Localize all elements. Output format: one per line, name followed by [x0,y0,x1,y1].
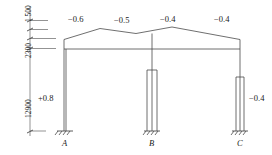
column-b [147,34,157,132]
support-a-symbol [55,131,73,135]
support-b-symbol [143,131,160,135]
coefficient-right-leeward: −0.4 [214,15,229,24]
support-label-a: A [62,139,67,148]
column-a [64,49,66,131]
column-c [236,49,244,131]
coefficient-right-wall: −0.4 [249,94,264,103]
support-label-c: C [237,139,243,148]
coefficient-left-windward: −0.6 [68,15,83,24]
coefficient-left-leeward: −0.5 [114,16,129,25]
dimension-top-segment: 1 500 [25,5,33,22]
support-label-b: B [149,139,154,148]
frame-geometry [0,0,272,155]
dimension-mid-segment: 2300 [25,43,33,58]
coefficient-left-wall: +0.8 [38,94,53,103]
dimension-column-height: 12900 [25,99,33,118]
coefficient-right-windward: −0.4 [160,15,175,24]
diagram-canvas: −0.6 −0.5 −0.4 −0.4 +0.8 −0.4 1 500 2300… [0,0,272,155]
support-c-symbol [231,131,248,135]
